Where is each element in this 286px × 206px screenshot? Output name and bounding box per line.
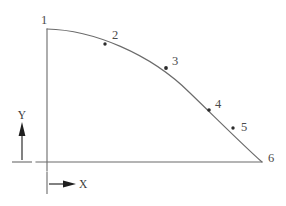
node-label-2: 2 [112, 28, 118, 42]
profile-curve [47, 29, 262, 162]
node-marker-3 [164, 66, 168, 70]
node-label-1: 1 [41, 13, 47, 27]
node-label-4: 4 [215, 97, 222, 111]
x-arrow-head-icon [63, 181, 76, 188]
node-marker-5 [231, 126, 234, 129]
node-label-3: 3 [172, 54, 178, 68]
node-marker-2 [103, 42, 106, 45]
x-axis-label: X [79, 178, 88, 190]
x-direction-arrow: X [47, 172, 88, 194]
y-arrow-head-icon [19, 122, 26, 136]
node-label-6: 6 [268, 151, 274, 165]
y-direction-arrow: Y [12, 109, 32, 162]
diagram-canvas: 1 2 3 4 5 6 Y X [0, 0, 286, 206]
node-labels: 1 2 3 4 5 6 [41, 13, 274, 165]
y-axis-label: Y [18, 109, 27, 121]
node-label-5: 5 [241, 120, 247, 134]
node-marker-4 [207, 108, 211, 112]
curve-node-diagram: 1 2 3 4 5 6 Y X [0, 0, 286, 206]
